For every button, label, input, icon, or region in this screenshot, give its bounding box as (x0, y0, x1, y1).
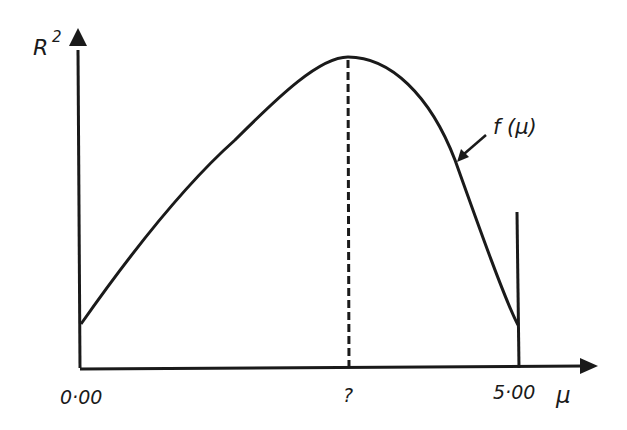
x-tick-label-origin: 0·00 (60, 386, 102, 408)
y-axis (78, 50, 80, 368)
x-axis-label: μ (555, 382, 571, 408)
curve-f-mu (81, 57, 518, 325)
end-vertical-line (517, 212, 519, 368)
y-axis-arrowhead (69, 28, 87, 46)
peak-dashed-line (348, 60, 349, 368)
curve-label: f (μ) (493, 115, 537, 139)
y-axis-label-superscript: 2 (52, 28, 62, 46)
x-axis (80, 366, 585, 369)
curve-label-arrow-shaft (464, 135, 486, 154)
x-axis-arrowhead (580, 358, 598, 374)
x-tick-label-end: 5·00 (493, 381, 535, 403)
y-axis-label: R (33, 35, 48, 60)
x-tick-label-peak: ? (343, 384, 353, 406)
r-squared-vs-mu-diagram: R 2 0·00 ? 5·00 μ f (μ) (0, 0, 627, 430)
